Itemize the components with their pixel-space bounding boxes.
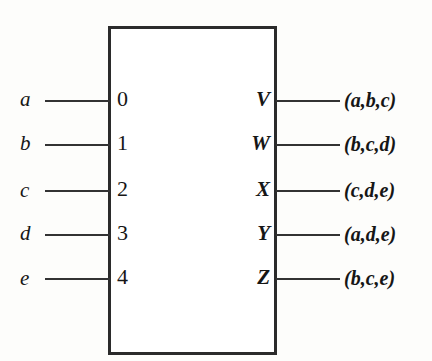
input-label-1: b	[20, 133, 44, 154]
output-label-0: V	[236, 89, 270, 110]
pin-number-4: 4	[117, 266, 143, 288]
input-wire-0	[45, 100, 110, 102]
input-wire-1	[45, 144, 110, 146]
input-label-3: d	[20, 223, 44, 244]
pin-number-3: 3	[117, 222, 143, 244]
output-expression-0: (a,b,c)	[344, 90, 432, 110]
output-expression-2: (c,d,e)	[344, 180, 432, 200]
output-wire-4	[276, 278, 340, 280]
input-label-0: a	[20, 89, 44, 110]
output-wire-0	[276, 100, 340, 102]
output-expression-1: (b,c,d)	[344, 134, 432, 154]
output-wire-3	[276, 234, 340, 236]
pin-number-2: 2	[117, 178, 143, 200]
output-label-1: W	[236, 133, 270, 154]
block-diagram: a 0 V (a,b,c) b 1 W (b,c,d) c 2 X (c,d,e…	[0, 0, 432, 361]
output-expression-4: (b,c,e)	[344, 268, 432, 288]
output-expression-3: (a,d,e)	[344, 224, 432, 244]
output-label-2: X	[236, 179, 270, 200]
pin-number-0: 0	[117, 88, 143, 110]
input-wire-2	[45, 190, 110, 192]
pin-number-1: 1	[117, 132, 143, 154]
output-label-3: Y	[236, 223, 270, 244]
output-wire-1	[276, 144, 340, 146]
input-wire-3	[45, 234, 110, 236]
output-wire-2	[276, 190, 340, 192]
input-label-2: c	[20, 180, 44, 201]
input-wire-4	[45, 278, 110, 280]
output-label-4: Z	[236, 267, 270, 288]
input-label-4: e	[20, 268, 44, 289]
